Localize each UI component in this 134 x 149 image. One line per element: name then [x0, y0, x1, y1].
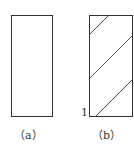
- caption-a: （a）: [14, 126, 43, 142]
- hatch-lines: [90, 16, 132, 116]
- marker-1: 1: [81, 106, 88, 119]
- caption-b: （b）: [92, 126, 121, 142]
- rectangle-a: [12, 16, 53, 117]
